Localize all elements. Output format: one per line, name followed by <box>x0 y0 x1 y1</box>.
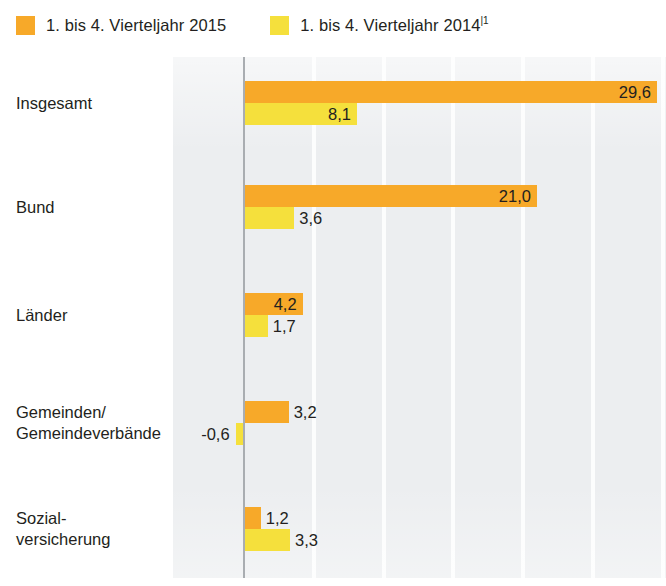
category-label-2: Bund <box>16 197 168 218</box>
category-label-line: Bund <box>16 197 168 218</box>
gridline-5 <box>312 57 316 578</box>
bar-value-label-2014-5: 3,3 <box>295 529 318 551</box>
legend-entry-2015: 1. bis 4. Vierteljahr 2015 <box>16 16 226 35</box>
gridline-30 <box>661 57 665 578</box>
plot-area: 29,621,04,23,21,28,13,61,7-0,63,3 <box>173 57 666 578</box>
gridline-10 <box>382 57 386 578</box>
bar-value-label-2015-5: 1,2 <box>266 507 289 529</box>
category-label-line: Gemeinden/ <box>16 402 168 423</box>
category-label-line: Gemeindeverbände <box>16 423 168 444</box>
category-label-5: Sozial-versicherung <box>16 508 168 550</box>
bar-value-label-2015-4: 3,2 <box>294 401 317 423</box>
bar-value-label-2014-2: 3,6 <box>299 207 322 229</box>
bar-value-label-2014-3: 1,7 <box>273 315 296 337</box>
gridline-25 <box>591 57 595 578</box>
bar-2014-3 <box>244 315 268 337</box>
bar-2014-2 <box>244 207 294 229</box>
bar-value-label-2014-1: 8,1 <box>309 103 351 125</box>
legend-label-2015: 1. bis 4. Vierteljahr 2015 <box>46 16 226 35</box>
category-label-line: Länder <box>16 305 168 326</box>
zero-axis-line <box>243 57 245 578</box>
gridline-20 <box>521 57 525 578</box>
legend-label-2014: 1. bis 4. Vierteljahr 2014|1 <box>300 15 488 35</box>
bar-2015-1 <box>244 81 657 103</box>
category-label-line: Sozial- <box>16 508 168 529</box>
bar-2014-5 <box>244 529 290 551</box>
bar-value-label-2015-1: 29,6 <box>609 81 651 103</box>
legend-swatch-2014 <box>270 16 289 35</box>
category-label-line: versicherung <box>16 529 168 550</box>
category-label-line: Insgesamt <box>16 93 168 114</box>
legend-swatch-2015 <box>16 16 35 35</box>
bar-value-label-2015-2: 21,0 <box>489 185 531 207</box>
category-label-3: Länder <box>16 305 168 326</box>
chart-legend: 1. bis 4. Vierteljahr 2015 1. bis 4. Vie… <box>0 0 666 50</box>
gridline-15 <box>451 57 455 578</box>
category-label-4: Gemeinden/Gemeindeverbände <box>16 402 168 444</box>
legend-entry-2014: 1. bis 4. Vierteljahr 2014|1 <box>270 15 488 35</box>
category-label-1: Insgesamt <box>16 93 168 114</box>
bar-value-label-2014-4: -0,6 <box>184 423 230 445</box>
bar-2015-5 <box>244 507 261 529</box>
bar-value-label-2015-3: 4,2 <box>255 293 297 315</box>
bar-2015-4 <box>244 401 289 423</box>
legend-footnote-marker: |1 <box>481 15 489 26</box>
